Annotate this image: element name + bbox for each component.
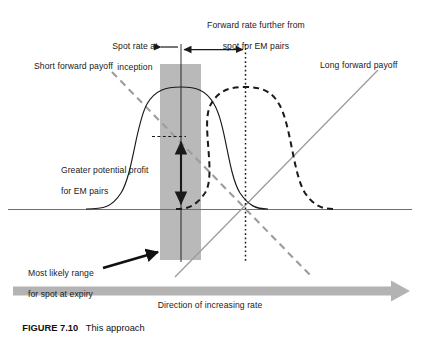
figure-caption-number: FIGURE 7.10 <box>22 323 78 333</box>
greater-potential-profit-label: Greater potential profit for EM pairs <box>51 155 148 207</box>
figure-caption-text: This approach <box>86 323 145 333</box>
figure-caption: FIGURE 7.10 This approach <box>12 313 145 337</box>
direction-axis-label: Direction of increasing rate <box>110 300 310 310</box>
most-likely-range-callout-arrow <box>103 252 158 268</box>
forward-rate-annotation-line1: Forward rate further from <box>207 20 305 30</box>
forward-rate-annotation-line2: spot for EM pairs <box>223 41 289 51</box>
spot-rate-annotation-line2: inception <box>117 62 152 72</box>
greater-potential-profit-line1: Greater potential profit <box>61 165 149 175</box>
spot-rate-annotation-line1: Spot rate at <box>112 41 157 51</box>
greater-potential-profit-line2: for EM pairs <box>61 186 108 196</box>
long-forward-payoff-line <box>175 70 378 277</box>
most-likely-range-label: Most likely range for spot at expiry <box>18 258 94 310</box>
most-likely-range-line1: Most likely range <box>28 268 94 278</box>
long-forward-payoff-label: Long forward payoff <box>320 60 397 70</box>
most-likely-range-line2: for spot at expiry <box>28 289 93 299</box>
forward-rate-annotation: Forward rate further from spot for EM pa… <box>176 10 326 62</box>
spot-rate-annotation: Spot rate at inception <box>98 31 162 83</box>
short-forward-payoff-label: Short forward payoff <box>34 61 113 71</box>
